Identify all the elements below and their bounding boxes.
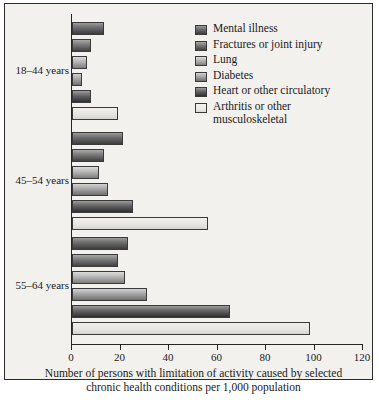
legend-item-label: Fractures or joint injury — [213, 38, 323, 52]
bar — [72, 217, 208, 230]
bar — [72, 166, 99, 179]
axis-tick — [217, 345, 218, 350]
axis-tick — [168, 345, 169, 350]
axis-tick-label: 100 — [294, 351, 334, 364]
axis-tick-label: 20 — [100, 351, 140, 364]
bar — [72, 183, 108, 196]
axis-tick — [71, 345, 72, 350]
caption-line-1: Number of persons with limitation of act… — [9, 366, 378, 380]
chart-legend: Mental illnessFractures or joint injuryL… — [195, 22, 367, 129]
bar — [72, 271, 125, 284]
bar — [72, 322, 310, 335]
legend-swatch-icon — [195, 103, 207, 113]
axis-tick — [362, 345, 363, 350]
bar — [72, 149, 104, 162]
axis-tick-label: 60 — [197, 351, 237, 364]
axis-tick — [120, 345, 121, 350]
legend-item: Heart or other circulatory — [195, 84, 367, 98]
legend-item: Diabetes — [195, 69, 367, 83]
bar — [72, 39, 91, 52]
bar — [72, 107, 118, 120]
legend-item-label: Lung — [213, 53, 237, 67]
legend-item: Fractures or joint injury — [195, 38, 367, 52]
chart-caption: Number of persons with limitation of act… — [9, 366, 378, 394]
bar — [72, 73, 82, 86]
legend-item: Arthritis or other musculoskeletal — [195, 100, 367, 127]
category-label: 55–64 years — [11, 279, 69, 292]
axis-tick-label: 0 — [51, 351, 91, 364]
bar — [72, 288, 147, 301]
axis-tick — [265, 345, 266, 350]
bar — [72, 305, 230, 318]
bar — [72, 200, 133, 213]
bar — [72, 22, 104, 35]
bar — [72, 237, 128, 250]
legend-swatch-icon — [195, 72, 207, 82]
legend-item-label: Heart or other circulatory — [213, 84, 330, 98]
legend-item: Lung — [195, 53, 367, 67]
bar — [72, 254, 118, 267]
caption-line-2: chronic health conditions per 1,000 popu… — [9, 380, 378, 394]
bar — [72, 132, 123, 145]
axis-tick-label: 40 — [148, 351, 188, 364]
legend-item: Mental illness — [195, 22, 367, 36]
category-label: 45–54 years — [11, 174, 69, 187]
axis-tick-label: 120 — [342, 351, 379, 364]
axis-tick — [314, 345, 315, 350]
legend-swatch-icon — [195, 56, 207, 66]
legend-item-label: Mental illness — [213, 22, 278, 36]
legend-swatch-icon — [195, 25, 207, 35]
legend-item-label: Diabetes — [213, 69, 253, 83]
chart-figure: 020406080100120 18–44 years45–54 years55… — [4, 3, 373, 380]
axis-tick-label: 80 — [245, 351, 285, 364]
bar — [72, 90, 91, 103]
legend-swatch-icon — [195, 41, 207, 51]
legend-item-label: Arthritis or other musculoskeletal — [213, 100, 367, 127]
legend-swatch-icon — [195, 87, 207, 97]
category-label: 18–44 years — [11, 64, 69, 77]
bar — [72, 56, 87, 69]
